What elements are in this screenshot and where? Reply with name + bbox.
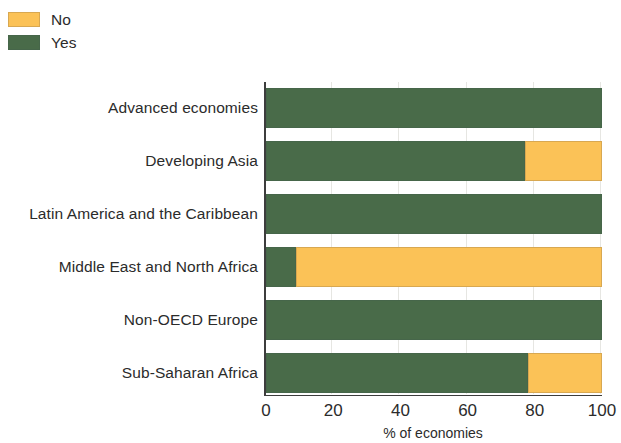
bar-row[interactable] (266, 194, 602, 234)
bar-segment-no[interactable] (296, 247, 602, 287)
x-axis-line (264, 395, 602, 397)
category-label: Non-OECD Europe (0, 312, 258, 328)
bar-row[interactable] (266, 300, 602, 340)
x-tick-20: 20 (303, 402, 363, 419)
bar-row[interactable] (266, 141, 602, 181)
category-label: Advanced economies (0, 100, 258, 116)
plot-area (264, 82, 602, 396)
bar-row[interactable] (266, 88, 602, 128)
x-tick-40: 40 (370, 402, 430, 419)
category-label: Middle East and North Africa (0, 259, 258, 275)
bar-segment-yes[interactable] (266, 194, 602, 234)
x-tick-100: 100 (572, 402, 621, 419)
bar-segment-yes[interactable] (266, 300, 602, 340)
bar-segment-yes[interactable] (266, 88, 602, 128)
category-label: Latin America and the Caribbean (0, 206, 258, 222)
category-label: Sub-Saharan Africa (0, 365, 258, 381)
bar-segment-no[interactable] (525, 141, 602, 181)
x-axis-title: % of economies (264, 426, 602, 440)
x-tick-0: 0 (236, 402, 296, 419)
bar-row[interactable] (266, 353, 602, 393)
category-label: Developing Asia (0, 153, 258, 169)
x-tick-80: 80 (505, 402, 565, 419)
bar-series-container (266, 82, 602, 394)
bar-segment-yes[interactable] (266, 353, 528, 393)
bar-segment-no[interactable] (528, 353, 602, 393)
bar-segment-yes[interactable] (266, 141, 525, 181)
bar-segment-yes[interactable] (266, 247, 296, 287)
x-tick-60: 60 (438, 402, 498, 419)
bar-row[interactable] (266, 247, 602, 287)
